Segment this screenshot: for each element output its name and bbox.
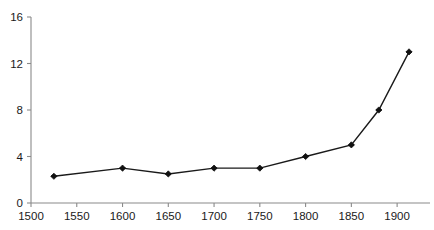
y-tick-label: 12 [10,58,23,70]
x-tick-label: 1700 [201,210,227,222]
x-tick-label: 1650 [155,210,181,222]
y-tick-label: 4 [17,151,24,163]
x-tick-label: 1900 [384,210,410,222]
x-tick-label: 1800 [293,210,319,222]
y-tick-label: 16 [10,11,23,23]
chart-background [0,0,434,230]
x-tick-label: 1550 [64,210,90,222]
y-tick-label: 8 [17,104,23,116]
x-tick-label: 1850 [339,210,365,222]
y-tick-label: 0 [17,197,23,209]
x-tick-label: 1500 [18,210,44,222]
chart-canvas: 0481216 15001550160016501700175018001850… [0,0,434,230]
x-tick-label: 1600 [110,210,136,222]
line-chart: 0481216 15001550160016501700175018001850… [0,0,434,230]
x-tick-label: 1750 [247,210,273,222]
